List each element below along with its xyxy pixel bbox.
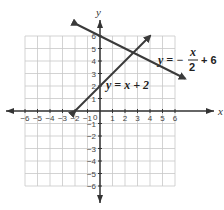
y-axis-label: y bbox=[95, 6, 101, 18]
y-tick-label: 3 bbox=[92, 70, 97, 79]
x-tick-label: −2 bbox=[70, 114, 80, 123]
x-tick-label: 3 bbox=[135, 114, 140, 123]
y-tick-label: −5 bbox=[87, 170, 97, 179]
equation-label-1: y = x + 2 bbox=[104, 78, 149, 92]
x-tick-label: 2 bbox=[123, 114, 128, 123]
x-tick-label: −4 bbox=[45, 114, 55, 123]
y-tick-label: 5 bbox=[92, 45, 97, 54]
x-tick-label: 5 bbox=[160, 114, 165, 123]
y-tick-label: 1 bbox=[92, 95, 97, 104]
x-tick-label: 1 bbox=[110, 114, 115, 123]
y-tick-label: −6 bbox=[87, 182, 97, 191]
y-tick-label: −3 bbox=[87, 145, 97, 154]
x-tick-label: 6 bbox=[173, 114, 178, 123]
eq1-text: y = x + 2 bbox=[104, 78, 149, 92]
y-tick-label: −2 bbox=[87, 132, 97, 141]
y-tick-label: −4 bbox=[87, 157, 97, 166]
x-tick-label: −6 bbox=[20, 114, 30, 123]
x-tick-label: −5 bbox=[33, 114, 43, 123]
x-axis-right-arrow-icon bbox=[206, 108, 214, 114]
coordinate-plane: −6−5−4−3−2−1123456654321−1−2−3−4−5−6 x y… bbox=[0, 0, 224, 210]
x-axis-label: x bbox=[217, 105, 223, 117]
eq2-denominator: 2 bbox=[189, 61, 195, 73]
x-tick-label: −3 bbox=[58, 114, 68, 123]
y-tick-label: 4 bbox=[92, 57, 97, 66]
y-axis-up-arrow-icon bbox=[97, 20, 103, 28]
x-tick-label: 4 bbox=[148, 114, 153, 123]
eq2-rhs: + 6 bbox=[201, 54, 217, 66]
y-axis-down-arrow-icon bbox=[97, 195, 103, 203]
eq2-lhs: y = − bbox=[156, 53, 183, 67]
origin-label: 0 bbox=[93, 113, 98, 122]
eq2-numerator: x bbox=[189, 45, 196, 59]
x-axis-left-arrow-icon bbox=[6, 108, 14, 114]
